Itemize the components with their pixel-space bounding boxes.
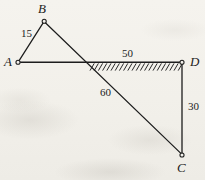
node-label-B: B <box>38 2 46 15</box>
member-BC <box>45 22 182 154</box>
dimension-label-CD: 30 <box>188 101 199 112</box>
joint-marker-D <box>180 60 184 64</box>
hatch-stroke <box>115 63 119 70</box>
hatch-stroke <box>107 63 111 70</box>
figure-canvas: A B C D 15 60 50 30 <box>0 0 205 180</box>
hatch-stroke <box>124 63 128 70</box>
hatch-stroke <box>149 63 153 70</box>
hatch-stroke <box>136 63 140 70</box>
node-label-C: C <box>177 161 186 174</box>
hatch-stroke <box>170 63 174 70</box>
dimension-label-AD: 50 <box>122 48 133 59</box>
hatch-stroke <box>119 63 123 70</box>
hatch-stroke <box>157 63 161 70</box>
hatch-stroke <box>174 63 178 70</box>
dimension-label-BC: 60 <box>100 87 111 98</box>
hatch-stroke <box>98 63 102 70</box>
hatch-stroke <box>153 63 157 70</box>
support-hatching <box>90 63 182 70</box>
hatch-stroke <box>140 63 144 70</box>
hatch-stroke <box>166 63 170 70</box>
hatch-stroke <box>111 63 115 70</box>
node-label-D: D <box>190 55 199 68</box>
hatch-stroke <box>132 63 136 70</box>
joint-marker-A <box>16 60 20 64</box>
joint-marker-C <box>180 153 184 157</box>
hatch-stroke <box>161 63 165 70</box>
dimension-label-AB: 15 <box>21 28 32 39</box>
hatch-stroke <box>94 63 98 70</box>
node-label-A: A <box>4 55 12 68</box>
hatch-stroke <box>145 63 149 70</box>
hatch-stroke <box>103 63 107 70</box>
joint-marker-B <box>42 19 46 23</box>
hatch-stroke <box>128 63 132 70</box>
